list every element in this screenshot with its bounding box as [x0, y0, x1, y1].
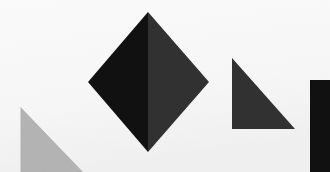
- shapes-scene: [0, 0, 330, 172]
- black-rectangle: [310, 80, 330, 172]
- photograph-canvas: [0, 0, 330, 172]
